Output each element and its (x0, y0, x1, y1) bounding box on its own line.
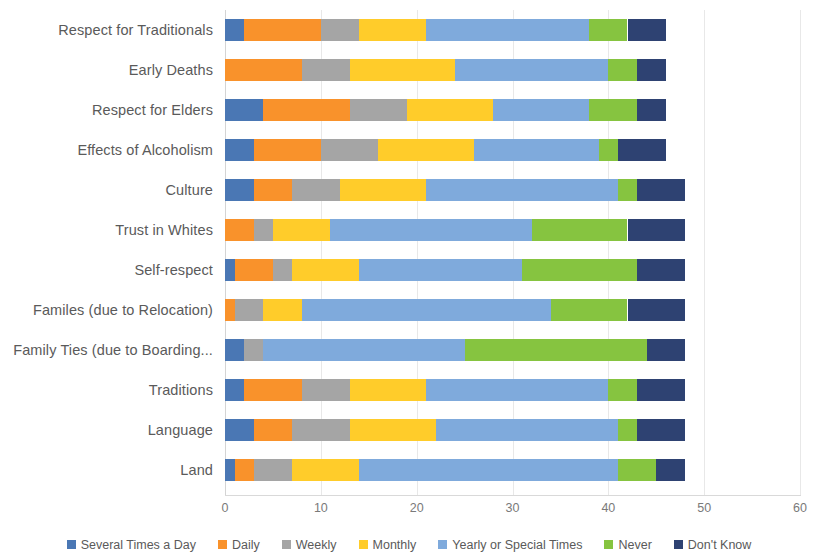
bar-segment[interactable] (637, 99, 666, 121)
bar-segment[interactable] (474, 139, 599, 161)
bar-segment[interactable] (273, 219, 331, 241)
legend-item[interactable]: Don't Know (674, 538, 752, 552)
bar-segment[interactable] (407, 99, 493, 121)
bar-segment[interactable] (225, 339, 244, 361)
bar-segment[interactable] (340, 179, 426, 201)
bar-segment[interactable] (254, 419, 292, 441)
bar-segment[interactable] (254, 139, 321, 161)
stacked-bar[interactable] (225, 179, 800, 201)
legend-item[interactable]: Daily (218, 538, 260, 552)
stacked-bar[interactable] (225, 219, 800, 241)
bar-segment[interactable] (225, 379, 244, 401)
bar-segment[interactable] (292, 459, 359, 481)
bar-segment[interactable] (359, 19, 426, 41)
bar-segment[interactable] (225, 259, 235, 281)
bar-segment[interactable] (493, 99, 589, 121)
bar-segment[interactable] (321, 19, 359, 41)
bar-segment[interactable] (465, 339, 647, 361)
bar-segment[interactable] (359, 459, 618, 481)
bar-segment[interactable] (225, 59, 302, 81)
category-label: Familes (due to Relocation) (0, 290, 213, 330)
bar-segment[interactable] (263, 99, 349, 121)
bar-segment[interactable] (618, 179, 637, 201)
legend-item[interactable]: Never (604, 538, 651, 552)
bar-segment[interactable] (359, 259, 522, 281)
bar-segment[interactable] (330, 219, 531, 241)
bar-segment[interactable] (244, 339, 263, 361)
legend-item[interactable]: Several Times a Day (67, 538, 196, 552)
bar-segment[interactable] (551, 299, 628, 321)
bar-segment[interactable] (350, 99, 408, 121)
stacked-bar[interactable] (225, 379, 800, 401)
bar-segment[interactable] (637, 179, 685, 201)
bar-segment[interactable] (321, 139, 379, 161)
bar-segment[interactable] (225, 179, 254, 201)
bar-segment[interactable] (426, 179, 618, 201)
bar-segment[interactable] (263, 339, 464, 361)
bar-segment[interactable] (426, 379, 608, 401)
bar-segment[interactable] (235, 259, 273, 281)
stacked-bar[interactable] (225, 99, 800, 121)
bar-segment[interactable] (292, 259, 359, 281)
bar-segment[interactable] (235, 299, 264, 321)
bar-segment[interactable] (235, 459, 254, 481)
bar-segment[interactable] (628, 19, 666, 41)
bar-segment[interactable] (263, 299, 301, 321)
legend-item[interactable]: Monthly (359, 538, 417, 552)
legend-item[interactable]: Yearly or Special Times (438, 538, 582, 552)
bar-segment[interactable] (225, 139, 254, 161)
bar-segment[interactable] (244, 379, 302, 401)
bar-segment[interactable] (254, 459, 292, 481)
bar-segment[interactable] (244, 19, 321, 41)
bar-segment[interactable] (292, 419, 350, 441)
stacked-bar[interactable] (225, 59, 800, 81)
bar-segment[interactable] (378, 139, 474, 161)
stacked-bar[interactable] (225, 459, 800, 481)
stacked-bar[interactable] (225, 139, 800, 161)
bar-segment[interactable] (254, 179, 292, 201)
bar-segment[interactable] (273, 259, 292, 281)
bar-segment[interactable] (436, 419, 618, 441)
bar-segment[interactable] (647, 339, 685, 361)
bar-segment[interactable] (599, 139, 618, 161)
legend-item[interactable]: Weekly (282, 538, 337, 552)
bar-segment[interactable] (350, 379, 427, 401)
stacked-bar[interactable] (225, 339, 800, 361)
bar-segment[interactable] (628, 299, 686, 321)
bar-segment[interactable] (225, 419, 254, 441)
bar-segment[interactable] (618, 419, 637, 441)
bar-segment[interactable] (225, 99, 263, 121)
legend-label: Never (618, 538, 651, 552)
bar-segment[interactable] (302, 379, 350, 401)
bar-segment[interactable] (426, 19, 589, 41)
bar-segment[interactable] (254, 219, 273, 241)
bar-segment[interactable] (589, 19, 627, 41)
bar-segment[interactable] (532, 219, 628, 241)
stacked-bar[interactable] (225, 19, 800, 41)
bar-segment[interactable] (637, 379, 685, 401)
stacked-bar[interactable] (225, 299, 800, 321)
bar-segment[interactable] (350, 419, 436, 441)
bar-segment[interactable] (350, 59, 455, 81)
bar-segment[interactable] (618, 459, 656, 481)
bar-segment[interactable] (637, 259, 685, 281)
bar-segment[interactable] (589, 99, 637, 121)
bar-segment[interactable] (302, 299, 551, 321)
bar-segment[interactable] (522, 259, 637, 281)
bar-segment[interactable] (608, 59, 637, 81)
bar-segment[interactable] (656, 459, 685, 481)
bar-segment[interactable] (225, 19, 244, 41)
bar-segment[interactable] (455, 59, 608, 81)
bar-segment[interactable] (225, 219, 254, 241)
bar-segment[interactable] (618, 139, 666, 161)
stacked-bar[interactable] (225, 419, 800, 441)
bar-segment[interactable] (225, 459, 235, 481)
bar-segment[interactable] (225, 299, 235, 321)
bar-segment[interactable] (637, 59, 666, 81)
bar-segment[interactable] (637, 419, 685, 441)
bar-segment[interactable] (608, 379, 637, 401)
bar-segment[interactable] (302, 59, 350, 81)
bar-segment[interactable] (628, 219, 686, 241)
stacked-bar[interactable] (225, 259, 800, 281)
bar-segment[interactable] (292, 179, 340, 201)
